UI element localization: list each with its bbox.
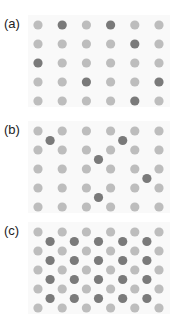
lattice-atom [130, 58, 139, 67]
interstitial-atom [70, 237, 79, 246]
lattice-atom [33, 183, 42, 192]
lattice-atom [82, 58, 91, 67]
interstitial-atom [70, 256, 79, 265]
lattice-atom [154, 96, 163, 105]
substitutional-atom [154, 77, 163, 86]
interstitial-atom [94, 237, 103, 246]
panel-b: (b) [0, 106, 174, 213]
lattice-atom [82, 265, 91, 274]
lattice-atom [154, 20, 163, 29]
lattice-atom [106, 164, 115, 173]
interstitial-atom [142, 256, 151, 265]
lattice-atom [130, 20, 139, 29]
lattice-atom [82, 183, 91, 192]
lattice-atom [130, 284, 139, 293]
interstitial-atom [94, 294, 103, 303]
lattice-atom [82, 246, 91, 255]
interstitial-atom [94, 193, 103, 202]
substitutional-atom [130, 96, 139, 105]
lattice-atom [33, 227, 42, 236]
lattice-atom [33, 265, 42, 274]
interstitial-atom [142, 174, 151, 183]
lattice-atom [130, 246, 139, 255]
substitutional-atom [82, 77, 91, 86]
interstitial-atom [118, 275, 127, 284]
lattice-atom [154, 58, 163, 67]
lattice-atom [106, 39, 115, 48]
lattice-atom [58, 227, 67, 236]
lattice-atom [58, 96, 67, 105]
lattice-atom [58, 284, 67, 293]
lattice-atom [82, 39, 91, 48]
lattice-atom [58, 145, 67, 154]
lattice-atom [130, 303, 139, 312]
lattice-atom [58, 77, 67, 86]
lattice-atom [130, 183, 139, 192]
interstitial-atom [94, 256, 103, 265]
lattice-atom [82, 96, 91, 105]
substitutional-atom [33, 58, 42, 67]
lattice-atom [33, 39, 42, 48]
lattice-atom [154, 284, 163, 293]
lattice-atom [33, 246, 42, 255]
lattice-atom [82, 145, 91, 154]
lattice-background [28, 15, 170, 107]
lattice-atom [154, 145, 163, 154]
lattice-atom [33, 77, 42, 86]
substitutional-atom [106, 20, 115, 29]
lattice-atom [106, 246, 115, 255]
lattice-atom [130, 145, 139, 154]
lattice-atom [82, 303, 91, 312]
lattice-atom [58, 58, 67, 67]
lattice-atom [106, 77, 115, 86]
lattice-atom [33, 164, 42, 173]
interstitial-atom [46, 256, 55, 265]
lattice-atom [154, 246, 163, 255]
lattice-atom [154, 126, 163, 135]
lattice-atom [130, 265, 139, 274]
lattice-atom [106, 145, 115, 154]
lattice-atom [130, 164, 139, 173]
lattice-atom [106, 284, 115, 293]
lattice-atom [58, 39, 67, 48]
lattice-atom [33, 96, 42, 105]
lattice-atom [33, 145, 42, 154]
lattice-atom [33, 303, 42, 312]
lattice-atom [33, 126, 42, 135]
interstitial-atom [142, 294, 151, 303]
lattice-atom [106, 183, 115, 192]
lattice-atom [106, 96, 115, 105]
lattice-atom [33, 20, 42, 29]
lattice-atom [154, 39, 163, 48]
lattice-atom [154, 265, 163, 274]
lattice-atom [58, 246, 67, 255]
interstitial-atom [46, 275, 55, 284]
interstitial-atom [118, 136, 127, 145]
lattice-atom [82, 227, 91, 236]
interstitial-atom [94, 155, 103, 164]
substitutional-atom [130, 39, 139, 48]
lattice-atom [154, 164, 163, 173]
interstitial-atom [46, 136, 55, 145]
lattice-atom [82, 20, 91, 29]
substitutional-atom [58, 20, 67, 29]
panel-a: (a) [0, 0, 174, 107]
lattice-atom [130, 227, 139, 236]
lattice-atom [58, 164, 67, 173]
lattice-atom [130, 126, 139, 135]
lattice-atom [106, 227, 115, 236]
interstitial-atom [142, 237, 151, 246]
interstitial-atom [118, 237, 127, 246]
interstitial-atom [70, 294, 79, 303]
lattice-atom [106, 265, 115, 274]
interstitial-atom [46, 294, 55, 303]
lattice-atom [33, 284, 42, 293]
interstitial-atom [70, 275, 79, 284]
lattice-atom [106, 126, 115, 135]
lattice-atom [106, 303, 115, 312]
lattice-atom [106, 58, 115, 67]
lattice-atom [154, 227, 163, 236]
lattice-atom [58, 126, 67, 135]
interstitial-atom [46, 237, 55, 246]
interstitial-atom [142, 275, 151, 284]
